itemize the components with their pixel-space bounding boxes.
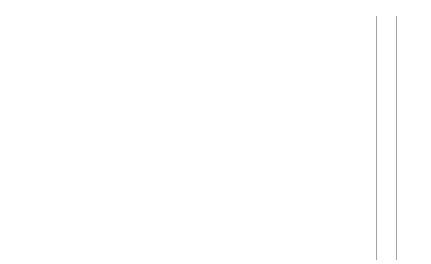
diagram-canvas [0,0,431,264]
ancestry-tree-svg [0,0,431,264]
totals-table [377,16,397,260]
